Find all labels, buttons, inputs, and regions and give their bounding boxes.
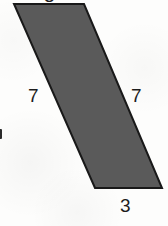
dimension-label-bottom-side: 3: [120, 196, 131, 215]
dimension-label-left-side: 7: [28, 86, 39, 105]
dimension-label-right-side: 7: [131, 86, 142, 105]
cropped-edge-artifact: [0, 129, 2, 139]
dimension-label-top-cropped: 3: [44, 0, 55, 5]
geometry-figure: 3 7 7 3: [0, 0, 168, 226]
parallelogram-svg: [0, 0, 168, 226]
